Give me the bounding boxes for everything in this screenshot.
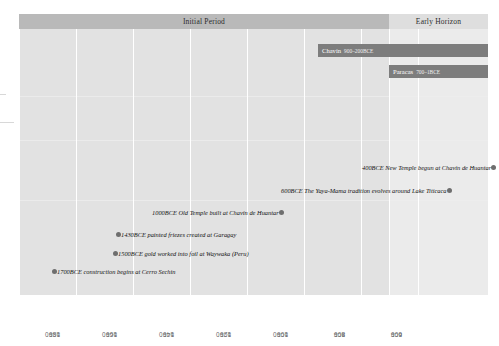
event-label: 600BCE The Yaya-Mama tradition evolves a… [281,187,447,194]
event-dot [279,210,284,215]
axis-tick-1600bce: 1600 BCE [72,299,83,343]
event-cerro-sechin-construction: 1700BCE construction begins at Cerro Sec… [49,266,176,276]
event-label: 1700BCE construction begins at Cerro Sec… [57,268,176,275]
axis-tick-1400bce: 1400 BCE [129,299,140,343]
margin-rule [0,94,6,95]
event-new-temple-chavin-de-huantar: 400BCE New Temple begun at Chavín de Hua… [362,162,499,172]
culture-bar-paracas-label: Paracas [389,68,413,75]
culture-bar-chavin-label: Chavín [318,47,341,54]
event-label: 1500BCE gold worked into foil at Waywaka… [118,250,249,257]
event-label: 1000BCE Old Temple built at Chavín de Hu… [152,209,279,216]
era-band-early-horizon: Early Horizon [389,14,488,29]
event-gold-foil-waywaka: 1500BCE gold worked into foil at Waywaka… [110,248,249,258]
axis-tick-600bce: 600 BCE [357,299,368,343]
event-dot [447,188,452,193]
event-yaya-mama-tradition: 600BCE The Yaya-Mama tradition evolves a… [281,185,455,195]
era-band-initial-period: Initial Period [19,14,389,29]
gridline-800bce [304,29,305,295]
culture-bar-paracas: Paracas 700–1BCE [389,65,488,78]
culture-bar-paracas-date: 700–1BCE [413,69,440,75]
axis-tick-1800bce: 1800 BCE [15,299,26,343]
gridline-1800bce [19,29,20,295]
axis-tick-1200bce: 1200 BCE [186,299,197,343]
culture-bar-chavin: Chavín 900–200BCE [318,44,488,57]
culture-bar-chavin-date: 900–200BCE [341,48,373,54]
axis-tick-800bce: 800 BCE [300,299,311,343]
gridline-1600bce [76,29,77,295]
axis-tick-1000bce: 1000 BCE [243,299,254,343]
event-label: 400BCE New Temple begun at Chavín de Hua… [362,164,491,171]
era-label-initial-period: Initial Period [183,17,225,26]
event-dot [491,165,496,170]
event-label: 1430BCE painted friezes created at Garag… [121,231,236,238]
event-old-temple-chavin-de-huantar: 1000BCE Old Temple built at Chavín de Hu… [152,207,287,217]
event-painted-friezes-garagay: 1430BCE painted friezes created at Garag… [113,229,236,239]
margin-rule [0,122,14,123]
era-label-early-horizon: Early Horizon [416,17,461,26]
